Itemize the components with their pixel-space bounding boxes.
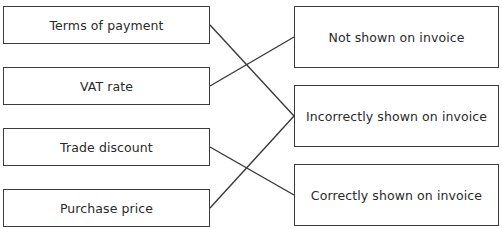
- left-box-label: Purchase price: [60, 201, 153, 216]
- right-box-incorrectly-shown: Incorrectly shown on invoice: [294, 85, 499, 147]
- left-box-purchase-price: Purchase price: [3, 189, 210, 227]
- right-box-label: Not shown on invoice: [328, 30, 464, 45]
- left-box-vat-rate: VAT rate: [3, 67, 210, 105]
- connection-line-2: [210, 147, 294, 195]
- left-box-label: Terms of payment: [49, 18, 163, 33]
- right-box-not-shown: Not shown on invoice: [294, 6, 499, 68]
- right-box-label: Correctly shown on invoice: [311, 188, 482, 203]
- right-box-correctly-shown: Correctly shown on invoice: [294, 164, 499, 226]
- right-box-label: Incorrectly shown on invoice: [306, 109, 487, 124]
- left-box-terms-of-payment: Terms of payment: [3, 6, 210, 44]
- left-box-label: VAT rate: [80, 79, 133, 94]
- left-box-trade-discount: Trade discount: [3, 128, 210, 166]
- left-box-label: Trade discount: [60, 140, 153, 155]
- connection-line-1: [210, 37, 294, 86]
- connection-line-3: [210, 116, 294, 208]
- connection-line-0: [210, 25, 294, 116]
